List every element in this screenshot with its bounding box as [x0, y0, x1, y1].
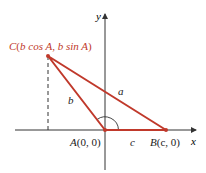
- side-c-label: c: [130, 136, 135, 148]
- point-B: [164, 128, 168, 132]
- y-axis-label: y: [95, 10, 101, 22]
- point-A: [103, 128, 107, 132]
- point-B-label: B(c, 0): [150, 136, 180, 149]
- point-C: [46, 54, 50, 58]
- point-C-label: C(b cos A, b sin A): [9, 40, 92, 53]
- x-axis-label: x: [190, 135, 196, 147]
- side-a-label: a: [118, 85, 124, 97]
- side-b-label: b: [68, 94, 74, 106]
- point-A-label: A(0, 0): [69, 136, 101, 149]
- triangle-diagram: y x C(b cos A, b sin A) A(0, 0) B(c, 0) …: [0, 0, 206, 173]
- triangle-ABC: [48, 56, 166, 130]
